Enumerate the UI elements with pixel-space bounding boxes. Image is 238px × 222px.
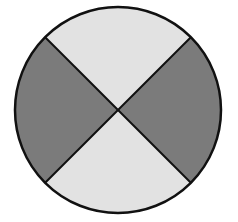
diagram-canvas <box>0 0 238 222</box>
quadrant-circle-diagram <box>0 0 238 222</box>
